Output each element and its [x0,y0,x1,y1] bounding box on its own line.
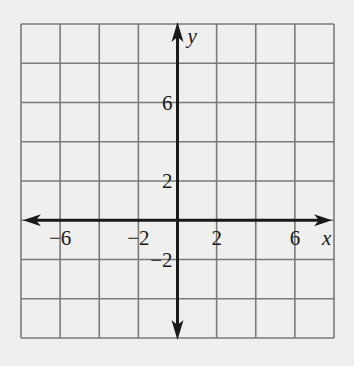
x-axis-label: x [321,226,332,250]
coordinate-plane: −6−22662−2 x y [0,0,354,366]
x-tick-label: −2 [127,226,149,250]
x-tick-label: 2 [211,226,222,250]
y-axis-label: y [186,24,198,48]
x-tick-label: −6 [49,226,71,250]
coordinate-grid-svg: −6−22662−2 x y [0,0,354,366]
x-tick-label: 6 [290,226,301,250]
y-tick-label: 2 [162,169,173,193]
y-tick-label: −2 [150,248,172,272]
y-tick-label: 6 [162,91,173,115]
